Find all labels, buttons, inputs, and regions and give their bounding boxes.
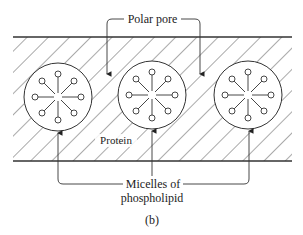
micelle-2: [118, 61, 186, 129]
micelle-3: [214, 61, 282, 129]
micelle-1: [24, 63, 92, 131]
micelles-label-line1: Micelles of: [126, 177, 180, 191]
figure-caption: (b): [145, 213, 159, 227]
membrane-diagram: Polar pore Protein Micelles of phospholi…: [0, 0, 303, 235]
polar-pore-label: Polar pore: [128, 12, 178, 26]
micelles-label-line2: phospholipid: [121, 191, 184, 205]
protein-label: Protein: [100, 134, 132, 146]
